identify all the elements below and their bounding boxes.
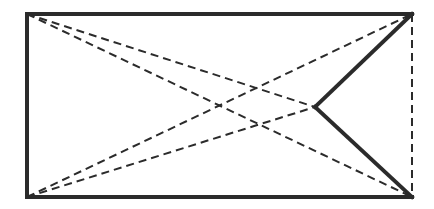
dashed-edges — [27, 14, 412, 197]
solid-segment-BP — [315, 14, 412, 107]
dashed-segment-AP — [27, 14, 315, 107]
geometry-diagram — [0, 0, 434, 209]
dashed-segment-DP — [27, 107, 315, 197]
solid-segment-PC — [315, 107, 412, 197]
